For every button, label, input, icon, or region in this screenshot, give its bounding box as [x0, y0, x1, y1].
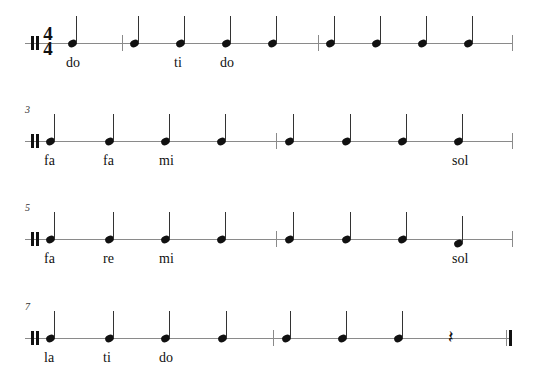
- syllable-label: sol: [452, 153, 468, 169]
- note-stem: [184, 16, 185, 43]
- quarter-note: [338, 335, 348, 342]
- syllable-label: do: [220, 55, 234, 71]
- note-stem: [472, 16, 473, 43]
- quarter-note: [268, 40, 278, 47]
- note-stem: [54, 212, 55, 239]
- note-stem: [230, 16, 231, 43]
- note-stem: [54, 114, 55, 141]
- note-stem: [426, 16, 427, 43]
- quarter-note: [218, 335, 228, 342]
- note-stem: [406, 212, 407, 239]
- quarter-note: [130, 40, 140, 47]
- staff-line: [25, 239, 512, 240]
- note-stem: [226, 311, 227, 338]
- quarter-note: [222, 40, 232, 47]
- note-stem: [462, 114, 463, 141]
- note-stem: [293, 114, 294, 141]
- barline: [273, 330, 274, 346]
- quarter-note: [398, 138, 408, 145]
- syllable-label: fa: [44, 153, 55, 169]
- quarter-note: [46, 138, 56, 145]
- note-stem: [350, 212, 351, 239]
- time-signature-bottom: 4: [41, 42, 55, 56]
- quarter-note: [342, 138, 352, 145]
- syllable-label: ti: [174, 55, 182, 71]
- quarter-note: [46, 236, 56, 243]
- syllable-label: sol: [452, 251, 468, 267]
- percussion-clef-icon: [31, 134, 39, 148]
- staff-line: [25, 338, 512, 339]
- quarter-rest-icon: 𝄽: [448, 328, 454, 346]
- quarter-note: [285, 236, 295, 243]
- syllable-label: mi: [159, 251, 174, 267]
- note-stem: [138, 16, 139, 43]
- quarter-note: [326, 40, 336, 47]
- note-stem: [225, 212, 226, 239]
- quarter-note: [282, 335, 292, 342]
- quarter-note: [464, 40, 474, 47]
- end-barline: [512, 35, 513, 51]
- barline: [122, 35, 123, 51]
- quarter-note: [105, 335, 115, 342]
- quarter-note: [285, 138, 295, 145]
- syllable-label: do: [159, 350, 173, 366]
- end-barline: [512, 133, 513, 149]
- barline: [276, 133, 277, 149]
- note-stem: [225, 114, 226, 141]
- syllable-label: fa: [103, 153, 114, 169]
- note-stem: [113, 212, 114, 239]
- note-stem: [276, 16, 277, 43]
- quarter-note: [105, 138, 115, 145]
- note-stem: [346, 311, 347, 338]
- quarter-note: [372, 40, 382, 47]
- measure-number: 3: [25, 104, 30, 115]
- note-stem: [169, 311, 170, 338]
- note-stem: [169, 212, 170, 239]
- final-barline-thin: [506, 330, 507, 346]
- quarter-note: [398, 236, 408, 243]
- quarter-note: [105, 236, 115, 243]
- note-stem: [113, 114, 114, 141]
- note-stem: [350, 114, 351, 141]
- quarter-note: [342, 236, 352, 243]
- quarter-note: [217, 236, 227, 243]
- syllable-label: do: [66, 55, 80, 71]
- staff-line: [25, 141, 512, 142]
- quarter-note: [454, 138, 464, 145]
- quarter-note: [176, 40, 186, 47]
- quarter-note: [418, 40, 428, 47]
- note-stem: [54, 311, 55, 338]
- percussion-clef-icon: [31, 36, 39, 50]
- quarter-note: [46, 335, 56, 342]
- syllable-label: la: [44, 350, 54, 366]
- quarter-note: [394, 335, 404, 342]
- measure-number: 7: [25, 301, 30, 312]
- percussion-clef-icon: [31, 232, 39, 246]
- syllable-label: fa: [44, 251, 55, 267]
- note-stem: [334, 16, 335, 43]
- note-stem: [290, 311, 291, 338]
- note-stem: [76, 16, 77, 43]
- measure-number: 5: [25, 202, 30, 213]
- note-stem: [380, 16, 381, 43]
- note-stem: [406, 114, 407, 141]
- quarter-note: [217, 138, 227, 145]
- quarter-note: [68, 40, 78, 47]
- syllable-label: mi: [159, 153, 174, 169]
- quarter-note: [161, 335, 171, 342]
- note-stem: [113, 311, 114, 338]
- barline: [318, 35, 319, 51]
- barline: [276, 231, 277, 247]
- quarter-note: [161, 236, 171, 243]
- note-stem: [462, 216, 463, 243]
- end-barline: [512, 231, 513, 247]
- note-stem: [169, 114, 170, 141]
- final-barline-thick: [509, 330, 512, 346]
- quarter-note: [161, 138, 171, 145]
- quarter-note: [454, 240, 464, 247]
- note-stem: [293, 212, 294, 239]
- syllable-label: ti: [103, 350, 111, 366]
- syllable-label: re: [103, 251, 114, 267]
- note-stem: [402, 311, 403, 338]
- percussion-clef-icon: [31, 331, 39, 345]
